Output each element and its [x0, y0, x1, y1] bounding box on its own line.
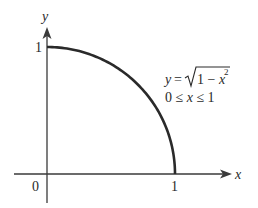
- y-axis-label: y: [40, 9, 49, 24]
- radicand-one: 1 −: [197, 72, 219, 87]
- equation-exponent: 2: [224, 67, 229, 77]
- equation: y = 1 − x 2 0 ≤ x ≤ 1: [163, 67, 230, 105]
- quarter-circle-diagram: y x 0 1 1 y = 1 − x 2 0 ≤ x ≤ 1: [0, 0, 258, 208]
- equation-radicand: 1 − x: [197, 72, 226, 87]
- equation-domain: 0 ≤ x ≤ 1: [165, 90, 215, 105]
- equation-lhs: y: [163, 72, 172, 87]
- y-tick-label-1: 1: [35, 40, 42, 55]
- equation-equals: =: [174, 72, 182, 87]
- quarter-circle-curve: [47, 47, 175, 174]
- origin-label: 0: [32, 179, 39, 194]
- x-axis-label: x: [234, 167, 242, 182]
- x-tick-label-1: 1: [171, 179, 178, 194]
